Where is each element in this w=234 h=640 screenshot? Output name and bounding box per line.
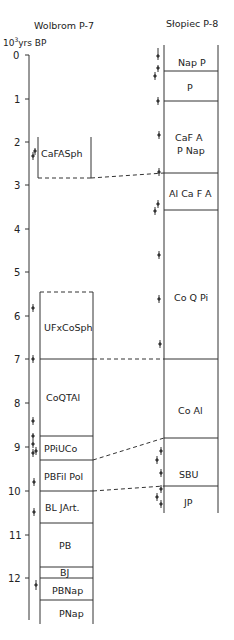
svg-text:9: 9	[14, 442, 20, 453]
date-marker-icon	[160, 469, 162, 477]
right-profile-title: Słopiec P-8	[166, 18, 218, 29]
date-marker-icon	[35, 447, 37, 455]
svg-text:10: 10	[8, 486, 21, 497]
date-marker-icon	[159, 340, 161, 348]
date-marker-icon	[158, 295, 160, 303]
date-marker-icon	[160, 447, 162, 455]
svg-text:1: 1	[14, 94, 20, 105]
date-marker-icon	[35, 580, 37, 590]
svg-text:103yrs BP: 103yrs BP	[3, 36, 47, 48]
svg-text:7: 7	[14, 354, 20, 365]
date-marker-icon	[157, 48, 159, 60]
zone-label: CoQTAl	[46, 392, 80, 403]
correlation-diagram: Wolbrom P-7 Słopiec P-8 103yrs BP 0 1 2 …	[0, 0, 234, 640]
zone-label: UFxCoSph	[44, 322, 93, 333]
date-marker-icon	[160, 485, 162, 493]
zone-label: Co Al	[178, 405, 203, 416]
svg-text:12: 12	[8, 573, 21, 584]
zone-label: BJ	[60, 567, 69, 578]
date-marker-icon	[156, 456, 158, 464]
y-axis-tick-labels: 0 1 2 3 4 5 6 7 8 9 10 11 12	[8, 50, 22, 584]
svg-text:3: 3	[14, 180, 20, 191]
date-marker-icon	[33, 478, 35, 486]
date-marker-icon	[157, 200, 159, 208]
zone-label: PPiUCo	[44, 443, 77, 454]
zone-label: SBU	[179, 469, 199, 480]
date-marker-icon	[32, 449, 34, 457]
date-marker-icon	[158, 251, 160, 259]
date-marker-icon	[32, 433, 34, 440]
svg-text:0: 0	[13, 50, 19, 61]
date-marker-icon	[32, 355, 34, 363]
date-marker-icon	[156, 493, 158, 501]
right-zone-labels: Nap P P CaF A P Nap Al Ca F A Co Q Pi Co…	[169, 57, 212, 508]
svg-text:8: 8	[14, 398, 20, 409]
date-marker-icon	[154, 72, 156, 80]
date-marker-icon	[33, 508, 35, 516]
zone-label: JP	[183, 497, 193, 508]
date-marker-icon	[157, 97, 159, 105]
date-marker-icon	[158, 131, 160, 139]
zone-label: Co Q Pi	[174, 292, 208, 303]
axis-unit-label: 103yrs BP	[3, 36, 47, 48]
svg-text:6: 6	[14, 311, 20, 322]
date-marker-icon	[154, 207, 156, 215]
zone-label: PNap	[59, 608, 84, 619]
right-profile-column	[164, 45, 218, 513]
date-marker-icon	[32, 417, 34, 425]
zone-label: PB	[59, 540, 71, 551]
left-date-markers	[32, 148, 37, 590]
date-marker-icon	[34, 148, 36, 155]
date-marker-icon	[160, 500, 162, 508]
y-axis	[25, 55, 29, 620]
date-marker-icon	[157, 65, 159, 72]
correlation-lines	[91, 173, 164, 491]
svg-text:5: 5	[14, 267, 20, 278]
zone-label: P	[187, 82, 193, 93]
zone-label: Al Ca F A	[169, 188, 212, 199]
left-zone-labels: CaFASph UFxCoSph CoQTAl PPiUCo PBFil Pol…	[41, 148, 93, 619]
svg-text:4: 4	[14, 224, 20, 235]
date-marker-icon	[32, 440, 34, 448]
zone-label: PBFil Pol	[44, 471, 83, 482]
zone-label: P Nap	[177, 145, 205, 156]
svg-text:11: 11	[9, 530, 22, 541]
zone-label: Nap P	[178, 57, 206, 68]
date-marker-icon	[32, 304, 34, 312]
zone-label: CaFASph	[41, 148, 83, 159]
zone-label: BL JArt.	[45, 502, 80, 513]
svg-text:2: 2	[14, 137, 20, 148]
date-marker-icon	[32, 152, 34, 160]
left-profile-title: Wolbrom P-7	[34, 20, 94, 31]
zone-label: PBNap	[52, 585, 83, 596]
date-marker-icon	[158, 168, 160, 176]
zone-label: CaF A	[175, 132, 203, 143]
